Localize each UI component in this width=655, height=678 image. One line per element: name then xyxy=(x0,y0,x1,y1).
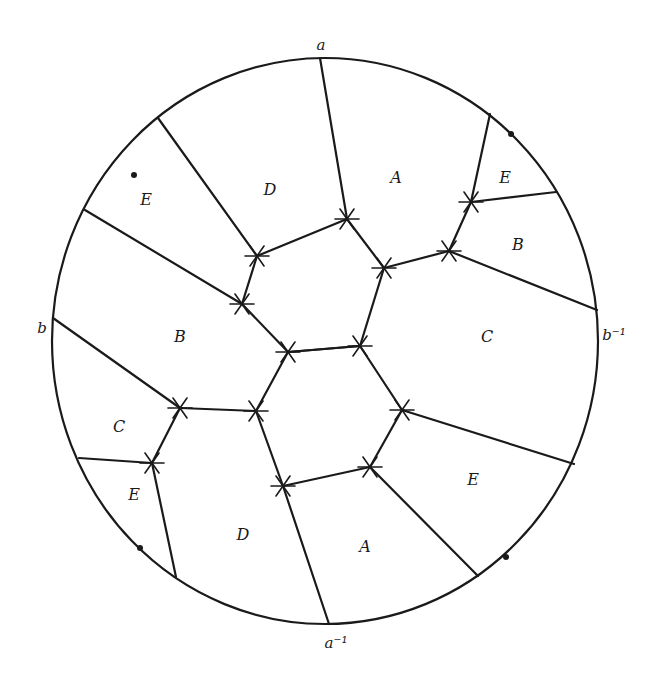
ray xyxy=(283,486,329,624)
vertex-mark xyxy=(390,400,414,420)
ray xyxy=(449,251,597,310)
region-label-d: D xyxy=(263,180,277,199)
region-label-c: C xyxy=(113,417,125,436)
region-label-b: B xyxy=(173,327,186,346)
region-label-e: E xyxy=(139,190,152,209)
boundary-circle xyxy=(52,58,598,624)
ray xyxy=(320,58,347,219)
ray xyxy=(85,210,242,304)
edge-upper-hexagon xyxy=(242,219,384,352)
vertex-mark xyxy=(335,209,359,229)
region-label-d: D xyxy=(236,525,250,544)
boundary-dot xyxy=(131,172,137,178)
vertex-mark xyxy=(245,246,269,266)
fundamental-domain-diagram: a a⁻¹ b b⁻¹ DAEEBBCCEEDA xyxy=(0,0,655,678)
boundary-dot xyxy=(508,131,514,137)
label-a: a xyxy=(317,36,326,54)
edge xyxy=(384,251,449,268)
ray xyxy=(471,192,556,202)
ray xyxy=(471,114,490,202)
vertex-mark xyxy=(276,342,300,362)
region-label-e: E xyxy=(466,470,479,489)
vertex-mark xyxy=(271,476,295,496)
ray xyxy=(152,463,176,577)
vertex-mark xyxy=(459,192,483,212)
region-label-a: A xyxy=(357,537,371,556)
region-labels: DAEEBBCCEEDA xyxy=(113,168,524,556)
vertex-mark xyxy=(372,258,396,278)
vertex-mark xyxy=(348,336,372,356)
region-label-c: C xyxy=(481,327,493,346)
label-b-inverse: b⁻¹ xyxy=(602,326,626,344)
region-label-a: A xyxy=(388,168,402,187)
label-a-inverse: a⁻¹ xyxy=(325,634,348,652)
vertex-mark xyxy=(437,241,461,261)
boundary-dot xyxy=(503,554,509,560)
ray xyxy=(53,318,180,408)
vertex-mark xyxy=(244,401,268,421)
edge xyxy=(449,202,471,251)
ray xyxy=(370,467,478,576)
label-b: b xyxy=(37,319,47,337)
ray xyxy=(402,410,574,464)
vertex-mark xyxy=(140,453,164,473)
region-label-e: E xyxy=(498,168,511,187)
region-label-e: E xyxy=(127,485,140,504)
vertex-marks xyxy=(140,192,483,496)
edge xyxy=(152,408,180,463)
vertex-mark xyxy=(230,294,254,314)
ray xyxy=(158,118,257,256)
boundary-dot xyxy=(137,545,143,551)
region-label-b: B xyxy=(511,235,524,254)
edge-lower-hexagon xyxy=(256,346,402,486)
